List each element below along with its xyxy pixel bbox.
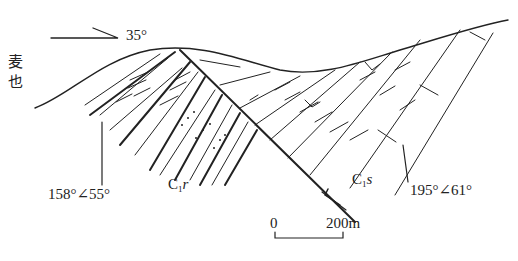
cross-section-drawing [0, 0, 518, 261]
scale-bar [275, 232, 343, 238]
scale-end-label: 200m [326, 216, 360, 231]
direction-arrow-icon [51, 28, 118, 38]
unit-label-c1s: C1s [352, 172, 372, 189]
scale-start-label: 0 [270, 216, 278, 231]
unit-label-c1r: C1r [168, 177, 188, 194]
fault-line [180, 50, 355, 222]
place-name-line2: 也 [8, 75, 23, 90]
right-attitude-label: 195°∠61° [410, 183, 472, 198]
place-name-line1: 麦 [8, 55, 23, 70]
direction-label: 35° [126, 28, 147, 43]
fault-movement-arrow-icon [325, 189, 340, 205]
left-attitude-label: 158°∠55° [48, 187, 110, 202]
